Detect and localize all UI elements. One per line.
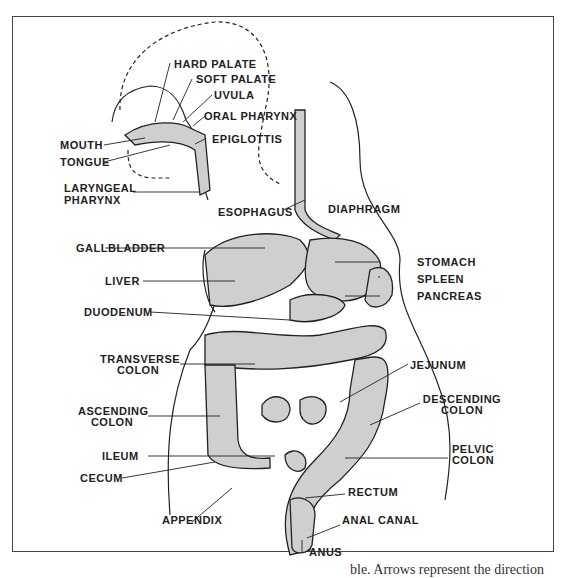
- label-duodenum: DUODENUM: [84, 307, 153, 318]
- esophagus-tube: [295, 110, 340, 240]
- label-pancreas: PANCREAS: [417, 291, 482, 302]
- rectum: [290, 498, 315, 553]
- label-laryngeal-pharynx-line1: LARYNGEAL: [64, 183, 137, 194]
- label-cecum: CECUM: [80, 473, 123, 484]
- label-oral-pharynx: ORAL PHARYNX: [204, 111, 297, 122]
- label-ileum: ILEUM: [102, 451, 139, 462]
- label-rectum: RECTUM: [348, 487, 398, 498]
- label-laryngeal-pharynx-line2: PHARYNX: [64, 195, 121, 206]
- label-uvula: UVULA: [214, 90, 254, 101]
- label-anal-canal: ANAL CANAL: [342, 515, 419, 526]
- label-pelvic-colon-line2: COLON: [450, 455, 496, 466]
- label-soft-palate: SOFT PALATE: [196, 74, 276, 85]
- figure-caption-fragment: ble. Arrows represent the direction: [350, 562, 544, 578]
- oral-cavity: [125, 123, 210, 195]
- label-esophagus: ESOPHAGUS: [218, 207, 293, 218]
- label-tongue: TONGUE: [60, 157, 110, 168]
- label-jejunum: JEJUNUM: [410, 360, 466, 371]
- liver: [205, 234, 309, 307]
- duodenum: [290, 295, 345, 322]
- label-gallbladder: GALLBLADDER: [76, 243, 165, 254]
- label-liver: LIVER: [105, 276, 140, 287]
- spleen: [365, 268, 393, 307]
- label-hard-palate: HARD PALATE: [174, 59, 257, 70]
- ascending-colon: [205, 365, 270, 469]
- label-anus: ANUS: [309, 547, 342, 558]
- label-transverse-colon-line2: COLON: [100, 365, 176, 376]
- label-descending-colon-line2: COLON: [422, 405, 502, 416]
- label-epiglottis: EPIGLOTTIS: [212, 134, 282, 145]
- label-stomach: STOMACH: [417, 257, 476, 268]
- label-spleen: SPLEEN: [417, 274, 464, 285]
- label-mouth: MOUTH: [60, 140, 103, 151]
- label-appendix: APPENDIX: [162, 515, 222, 526]
- label-ascending-colon-line2: COLON: [78, 417, 146, 428]
- label-diaphragm: DIAPHRAGM: [328, 204, 400, 215]
